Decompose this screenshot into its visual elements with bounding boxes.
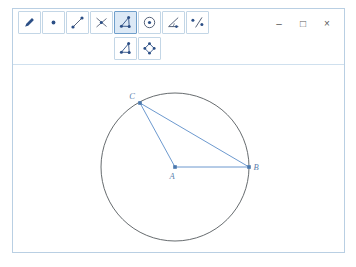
application-window: – □ ×	[12, 8, 345, 253]
minimize-button[interactable]: –	[268, 15, 290, 33]
close-button[interactable]: ×	[316, 15, 338, 33]
intersecting-lines-icon	[94, 15, 109, 30]
minimize-icon: –	[276, 19, 282, 29]
maximize-button[interactable]: □	[292, 15, 314, 33]
toolbar-row-primary	[18, 11, 210, 39]
point-b-label: B	[253, 162, 258, 172]
point-c[interactable]	[138, 101, 142, 105]
segment-tool-button[interactable]	[66, 11, 89, 34]
circle-tool-button[interactable]	[138, 11, 161, 34]
point-c-label: C	[129, 91, 135, 101]
point-tool-button[interactable]	[42, 11, 65, 34]
polygon-tool-button[interactable]	[114, 11, 137, 34]
segment-ac[interactable]	[140, 103, 175, 167]
triangle-points-icon	[118, 15, 133, 30]
segment-cb[interactable]	[140, 103, 249, 167]
geometry-canvas[interactable]: A B C	[13, 65, 344, 252]
window-controls: – □ ×	[268, 15, 338, 33]
point-a[interactable]	[173, 165, 177, 169]
polygon-subtool-button[interactable]	[114, 37, 137, 60]
intersect-tool-button[interactable]	[90, 11, 113, 34]
geometry-construction: A B C	[13, 65, 344, 252]
rigid-polygon-subtool-button[interactable]	[138, 37, 161, 60]
circle-center-icon	[142, 15, 157, 30]
maximize-icon: □	[300, 19, 306, 29]
angle-tool-button[interactable]	[162, 11, 185, 34]
segment-icon	[70, 15, 85, 30]
point-a-label: A	[168, 171, 175, 181]
point-b[interactable]	[247, 165, 251, 169]
triangle-points-icon	[118, 41, 133, 56]
parallel-line-tool-button[interactable]	[186, 11, 209, 34]
point-icon	[46, 15, 61, 30]
app-root: – □ ×	[0, 0, 356, 267]
pen-icon	[22, 15, 37, 30]
quad-points-icon	[142, 41, 157, 56]
toolbar: – □ ×	[13, 9, 344, 65]
pen-tool-button[interactable]	[18, 11, 41, 34]
toolbar-row-submenu	[114, 37, 162, 65]
line-points-icon	[190, 15, 205, 30]
angle-icon	[166, 15, 181, 30]
close-icon: ×	[324, 19, 330, 29]
